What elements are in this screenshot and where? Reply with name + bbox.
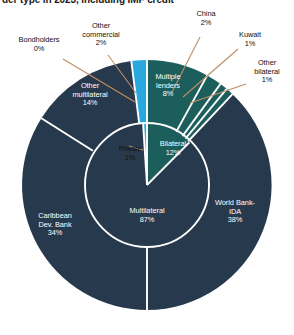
label-other-commercial: Other commercial 2% bbox=[72, 22, 130, 48]
label-multilateral: Multilateral 87% bbox=[111, 207, 183, 224]
label-china: China 2% bbox=[185, 10, 227, 27]
label-kuwait: Kuwait 1% bbox=[228, 31, 272, 48]
label-other-multilateral: Other multilateral 14% bbox=[59, 82, 121, 108]
label-world-bank-ida: World Bank- IDA 38% bbox=[205, 199, 265, 225]
label-caribbean-dev-bank: Caribbean Dev. Bank 34% bbox=[22, 212, 88, 238]
label-bondholders: Bondholders 0% bbox=[8, 36, 70, 53]
pie-chart-figure: der type in 2023, including IMF credit bbox=[0, 0, 294, 335]
label-private: Private 1% bbox=[110, 145, 150, 162]
label-bilateral: Bilateral 12% bbox=[150, 140, 196, 157]
label-other-bilateral: Other bilateral 1% bbox=[244, 59, 290, 85]
label-multiple-lenders: Multiple lenders 8% bbox=[145, 73, 191, 99]
